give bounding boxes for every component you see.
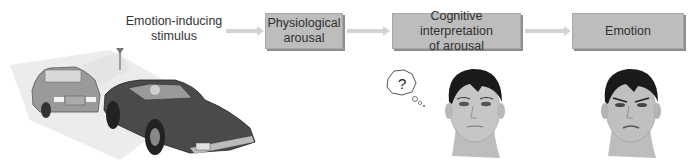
cognition-label-line2: of arousal [393,39,520,54]
thought-bubble: ? [382,65,442,115]
cars-illustration [0,40,270,165]
stimulus-label-line1: Emotion-inducing [118,14,230,29]
cognitive-interpretation-box: Cognitive interpretation of arousal [392,13,521,49]
physiological-arousal-box: Physiological arousal [265,13,343,49]
question-mark-icon: ? [398,75,406,92]
arrow-stimulus-to-arousal [226,29,258,33]
arousal-label-line1: Physiological [268,16,341,31]
arrow-cognition-to-emotion [525,29,565,33]
cognition-label-line1: Cognitive interpretation [393,9,520,39]
emotion-face-icon [596,66,666,165]
confused-face-icon [440,66,510,165]
emotion-label: Emotion [605,24,651,39]
arousal-label-line2: arousal [268,31,341,46]
arrow-arousal-to-cognition [347,29,384,33]
emotion-box: Emotion [572,13,684,49]
